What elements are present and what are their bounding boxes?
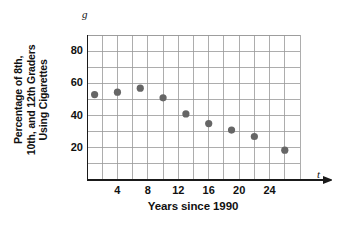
x-tick-label: 20 xyxy=(229,184,249,196)
y-axis-variable-label: g xyxy=(82,8,88,20)
x-tick-label: 8 xyxy=(138,184,158,196)
x-tick-label: 24 xyxy=(260,184,280,196)
data-point xyxy=(91,91,98,98)
plot-canvas xyxy=(87,35,332,185)
data-point xyxy=(205,120,212,127)
data-point xyxy=(137,85,144,92)
x-tick-label: 16 xyxy=(199,184,219,196)
y-axis-title-line-1: Percentage of 8th, xyxy=(12,45,25,156)
scatter-plot-figure: Percentage of 8th, 10th, and 12th Grader… xyxy=(0,0,337,225)
x-tick-label: 4 xyxy=(107,184,127,196)
y-axis-title-line-2: 10th, and 12th Graders xyxy=(25,45,38,156)
data-point xyxy=(182,110,189,117)
axis-lines xyxy=(87,35,325,180)
data-point xyxy=(228,126,235,133)
y-tick-label: 20 xyxy=(61,141,83,153)
x-axis-title: Years since 1990 xyxy=(62,200,324,212)
data-point xyxy=(281,147,288,154)
axis-arrows xyxy=(87,35,332,184)
data-point xyxy=(251,133,258,140)
data-point xyxy=(159,94,166,101)
plot-area xyxy=(87,35,300,180)
y-tick-label: 60 xyxy=(61,76,83,88)
y-axis-title-line-3: Using Cigarettes xyxy=(37,45,50,156)
grid-lines xyxy=(87,35,300,180)
data-point xyxy=(114,89,121,96)
y-tick-label: 80 xyxy=(61,44,83,56)
y-tick-label: 40 xyxy=(61,109,83,121)
x-tick-label: 12 xyxy=(168,184,188,196)
y-axis-title: Percentage of 8th, 10th, and 12th Grader… xyxy=(0,0,62,200)
data-markers xyxy=(91,85,288,154)
